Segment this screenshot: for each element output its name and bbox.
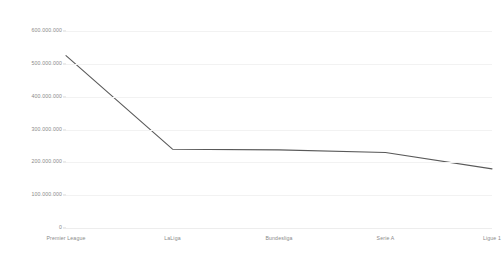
y-axis-tick-label: 300.000.000 (32, 127, 63, 132)
y-axis-tick-label: 600.000.000 (32, 28, 63, 33)
gridline (66, 64, 492, 65)
x-axis-tick-label: Premier League (46, 236, 85, 241)
y-axis: 0100.000.000200.000.000300.000.000400.00… (0, 31, 62, 228)
gridline (66, 97, 492, 98)
series-line-revenue (66, 56, 492, 169)
plot-area (66, 31, 492, 228)
gridline (66, 195, 492, 196)
x-axis-tick-label: Serie A (377, 236, 395, 241)
gridline (66, 31, 492, 32)
gridline (66, 130, 492, 131)
y-axis-tick-label: 400.000.000 (32, 94, 63, 99)
y-axis-tick-label: 200.000.000 (32, 160, 63, 165)
x-axis-tick-label: LaLiga (164, 236, 180, 241)
y-axis-tick-label: 100.000.000 (32, 193, 63, 198)
y-axis-tick-label: 500.000.000 (32, 61, 63, 66)
y-axis-tick-label: 0 (59, 225, 62, 230)
gridline (66, 162, 492, 163)
x-axis-tick-label: Bundesliga (265, 236, 292, 241)
line-chart: 0100.000.000200.000.000300.000.000400.00… (0, 0, 504, 260)
gridline (66, 228, 492, 229)
x-axis: Premier LeagueLaLigaBundesligaSerie ALig… (0, 236, 504, 250)
x-axis-tick-label: Ligue 1 (483, 236, 501, 241)
